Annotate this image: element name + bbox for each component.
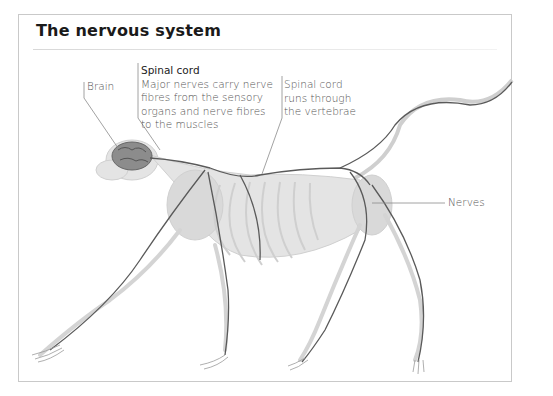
spinal-cord-line-4: to the muscles [141, 118, 273, 132]
label-brain: Brain [87, 80, 114, 94]
paws [32, 345, 424, 374]
label-vertebrae: Spinal cord runs through the vertebrae [284, 78, 356, 119]
vertebrae-line-3: the vertebrae [284, 105, 356, 119]
spinal-cord-line-1: Major nerves carry nerve [141, 78, 273, 92]
spinal-cord-heading: Spinal cord [141, 64, 273, 78]
brain-shape [112, 142, 152, 170]
label-spinal-cord: Spinal cord Major nerves carry nerve fib… [141, 64, 273, 132]
vertebrae-line-2: runs through [284, 92, 356, 106]
spinal-cord-line-3: organs and nerve fibres [141, 105, 273, 119]
label-nerves: Nerves [448, 196, 485, 210]
vertebrae-line-1: Spinal cord [284, 78, 356, 92]
tail [355, 80, 512, 178]
spinal-cord-line-2: fibres from the sensory [141, 91, 273, 105]
